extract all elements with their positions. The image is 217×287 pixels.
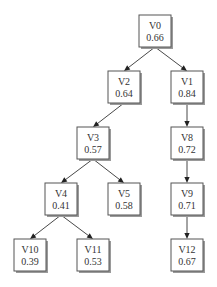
- node-v4: V40.41: [45, 183, 79, 217]
- node-name: V3: [87, 132, 99, 143]
- tree-diagram: V00.66V20.64V10.84V30.57V80.72V40.41V50.…: [0, 0, 217, 287]
- edge-line: [96, 103, 124, 125]
- node-value: 0.66: [146, 32, 164, 43]
- node-value: 0.41: [52, 200, 70, 211]
- edge-v4-v11: [61, 215, 93, 239]
- node-v2: V20.64: [108, 71, 142, 105]
- node-v5: V50.58: [108, 183, 142, 217]
- arrow-head-icon: [184, 233, 189, 239]
- node-v1: V10.84: [171, 71, 205, 105]
- edge-v3-v4: [61, 159, 93, 183]
- node-v12: V120.67: [171, 239, 205, 273]
- arrow-head-icon: [118, 177, 124, 183]
- edge-line: [61, 215, 90, 237]
- node-name: V12: [178, 244, 195, 255]
- edge-line: [155, 47, 184, 69]
- node-value: 0.64: [115, 88, 133, 99]
- node-value: 0.39: [21, 256, 39, 267]
- arrow-head-icon: [93, 121, 99, 127]
- edge-line: [93, 159, 121, 181]
- edge-v2-v3: [93, 103, 124, 127]
- node-v3: V30.57: [77, 127, 111, 161]
- arrow-head-icon: [61, 177, 67, 183]
- node-v11: V110.53: [77, 239, 111, 273]
- node-name: V11: [85, 244, 102, 255]
- edge-v8-v9: [184, 159, 189, 183]
- node-value: 0.67: [178, 256, 196, 267]
- edge-v1-v8: [184, 103, 189, 127]
- edge-line: [64, 159, 93, 181]
- node-v9: V90.71: [171, 183, 205, 217]
- node-value: 0.71: [178, 200, 196, 211]
- node-v8: V80.72: [171, 127, 205, 161]
- edge-v3-v5: [93, 159, 124, 183]
- node-name: V9: [181, 188, 193, 199]
- edge-v0-v1: [155, 47, 187, 71]
- nodes-layer: V00.66V20.64V10.84V30.57V80.72V40.41V50.…: [14, 15, 205, 273]
- node-name: V2: [118, 76, 130, 87]
- edge-v4-v10: [30, 215, 61, 239]
- node-value: 0.72: [178, 144, 196, 155]
- edge-line: [127, 47, 155, 69]
- arrow-head-icon: [184, 121, 189, 127]
- node-name: V0: [149, 20, 161, 31]
- node-name: V10: [21, 244, 38, 255]
- node-v10: V100.39: [14, 239, 48, 273]
- edge-v0-v2: [124, 47, 155, 71]
- node-name: V4: [55, 188, 67, 199]
- node-value: 0.57: [84, 144, 102, 155]
- node-name: V5: [118, 188, 130, 199]
- edge-line: [33, 215, 61, 237]
- node-value: 0.84: [178, 88, 196, 99]
- arrow-head-icon: [30, 233, 36, 239]
- node-name: V1: [181, 76, 193, 87]
- node-value: 0.58: [115, 200, 133, 211]
- node-v0: V00.66: [139, 15, 173, 49]
- arrow-head-icon: [181, 65, 187, 71]
- edge-v9-v12: [184, 215, 189, 239]
- arrow-head-icon: [124, 65, 130, 71]
- node-name: V8: [181, 132, 193, 143]
- arrow-head-icon: [87, 233, 93, 239]
- arrow-head-icon: [184, 177, 189, 183]
- node-value: 0.53: [84, 256, 102, 267]
